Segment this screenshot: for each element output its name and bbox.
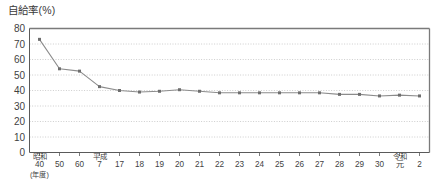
y-axis-tick-label: 20 bbox=[14, 116, 26, 127]
data-point-marker bbox=[398, 94, 401, 97]
food-self-sufficiency-chart: 自給率(%) 010203040506070804050607171819202… bbox=[0, 0, 441, 194]
data-point-marker bbox=[318, 91, 321, 94]
x-axis-tick-label: 2 bbox=[417, 160, 422, 169]
data-point-marker bbox=[118, 89, 121, 92]
data-point-marker bbox=[138, 91, 141, 94]
data-point-marker bbox=[58, 67, 61, 70]
x-axis-tick-label: 20 bbox=[175, 160, 185, 169]
x-axis-tick-label: 21 bbox=[195, 160, 205, 169]
data-point-marker bbox=[218, 91, 221, 94]
x-axis-tick-label: 27 bbox=[315, 160, 325, 169]
y-axis-tick-label: 80 bbox=[14, 23, 26, 34]
x-axis-era-label: 令和 bbox=[393, 152, 407, 161]
x-axis-tick-label: 30 bbox=[375, 160, 385, 169]
x-axis-tick-label: 25 bbox=[275, 160, 285, 169]
chart-plot-area: 0102030405060708040506071718192021222324… bbox=[0, 0, 441, 194]
data-point-marker bbox=[258, 91, 261, 94]
data-point-marker bbox=[278, 91, 281, 94]
y-axis-tick-label: 50 bbox=[14, 70, 26, 81]
x-axis-tick-label: 28 bbox=[335, 160, 345, 169]
data-point-marker bbox=[378, 94, 381, 97]
x-axis-era-label: 平成 bbox=[93, 152, 108, 161]
data-point-marker bbox=[338, 93, 341, 96]
data-point-marker bbox=[178, 88, 181, 91]
x-axis-era-label: 昭和 bbox=[33, 152, 47, 161]
x-axis-tick-label: 18 bbox=[135, 160, 145, 169]
data-point-marker bbox=[158, 90, 161, 93]
x-axis-tick-label: 50 bbox=[55, 160, 65, 169]
x-axis-tick-label: 26 bbox=[295, 160, 305, 169]
y-axis-tick-label: 60 bbox=[14, 54, 26, 65]
data-point-marker bbox=[38, 38, 41, 41]
y-axis-tick-label: 10 bbox=[14, 132, 26, 143]
y-axis-tick-label: 70 bbox=[14, 39, 26, 50]
y-axis-tick-label: 0 bbox=[19, 147, 25, 158]
data-series-line bbox=[40, 39, 420, 96]
x-axis-tick-label: 24 bbox=[255, 160, 265, 169]
y-axis-tick-label: 40 bbox=[14, 85, 26, 96]
x-axis-tick-label: 60 bbox=[75, 160, 85, 169]
data-point-marker bbox=[358, 93, 361, 96]
x-axis-tick-label: 22 bbox=[215, 160, 225, 169]
x-axis-tick-label: 29 bbox=[355, 160, 365, 169]
data-point-marker bbox=[418, 94, 421, 97]
data-point-marker bbox=[78, 70, 81, 73]
x-axis-tick-label: 23 bbox=[235, 160, 245, 169]
x-axis-unit-label: (年度) bbox=[30, 170, 49, 179]
x-axis-tick-label: 19 bbox=[155, 160, 165, 169]
data-point-marker bbox=[98, 85, 101, 88]
x-axis-tick-label: 17 bbox=[115, 160, 125, 169]
data-point-marker bbox=[198, 90, 201, 93]
data-point-marker bbox=[238, 91, 241, 94]
y-axis-tick-label: 30 bbox=[14, 101, 26, 112]
data-point-marker bbox=[298, 91, 301, 94]
